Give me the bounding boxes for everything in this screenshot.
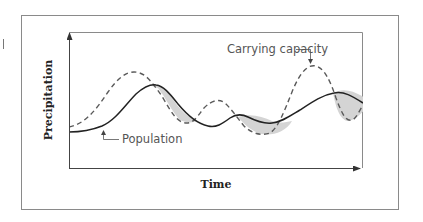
- population-curve: [69, 85, 363, 132]
- y-axis-label: Precipitation: [42, 60, 55, 141]
- carrying-capacity-label: Carrying capacity: [227, 42, 328, 56]
- x-axis-label: Time: [200, 178, 231, 191]
- carrying-capacity-curve: [69, 66, 368, 135]
- population-leader: [104, 131, 120, 140]
- diagram-canvas: Precipitation Time Carrying capacity Pop…: [0, 0, 423, 222]
- population-label: Population: [122, 132, 182, 146]
